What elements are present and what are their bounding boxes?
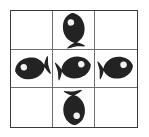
grid-cell-top-left[interactable] <box>11 11 53 50</box>
grid-cell-middle-right[interactable] <box>95 50 137 89</box>
fish-icon-right-center <box>53 50 94 88</box>
fish-icon-down <box>53 88 94 127</box>
fish-grid <box>10 10 138 128</box>
fish-icon-up <box>53 11 94 49</box>
fish-icon-right <box>95 50 137 88</box>
grid-cell-middle-center[interactable] <box>53 50 95 89</box>
grid-cell-top-center[interactable] <box>53 11 95 50</box>
grid-cell-middle-left[interactable] <box>11 50 53 89</box>
grid-cell-top-right[interactable] <box>95 11 137 50</box>
fish-icon-left <box>11 50 52 88</box>
grid-cell-bottom-center[interactable] <box>53 88 95 127</box>
figure-root <box>0 0 149 137</box>
grid-cell-bottom-right[interactable] <box>95 88 137 127</box>
grid-cell-bottom-left[interactable] <box>11 88 53 127</box>
